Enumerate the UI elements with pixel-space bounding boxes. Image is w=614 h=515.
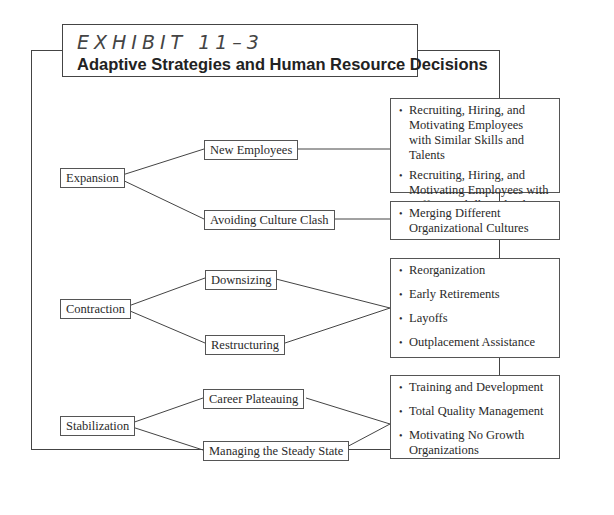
outcome-item: Total Quality Management <box>399 404 551 419</box>
node-stabilization: Stabilization <box>60 416 135 436</box>
outcome-contraction: Reorganization Early Retirements Layoffs… <box>390 258 560 358</box>
node-avoiding-culture-clash: Avoiding Culture Clash <box>204 210 335 230</box>
node-restructuring: Restructuring <box>205 335 285 355</box>
outcome-item: Recruiting, Hiring, and Motivating Emplo… <box>399 103 551 163</box>
outcome-item: Early Retirements <box>399 287 551 302</box>
node-downsizing: Downsizing <box>205 270 277 290</box>
outcome-item: Merging Different Organizational Culture… <box>399 206 551 236</box>
outcome-culture-clash: Merging Different Organizational Culture… <box>390 201 560 240</box>
node-managing-steady-state: Managing the Steady State <box>203 441 349 461</box>
outcome-stabilization: Training and Development Total Quality M… <box>390 375 560 459</box>
outcome-item: Layoffs <box>399 311 551 326</box>
node-expansion: Expansion <box>60 168 125 188</box>
outcome-item: Motivating No Growth Organizations <box>399 428 551 458</box>
node-contraction: Contraction <box>60 299 131 319</box>
exhibit-title: Adaptive Strategies and Human Resource D… <box>77 55 488 74</box>
exhibit-number: EXHIBIT 11–3 <box>77 31 264 53</box>
outcome-item: Outplacement Assistance <box>399 335 551 350</box>
node-new-employees: New Employees <box>204 140 298 160</box>
exhibit-header: EXHIBIT 11–3 Adaptive Strategies and Hum… <box>62 24 418 77</box>
node-career-plateauing: Career Plateauing <box>203 389 304 409</box>
outcome-item: Reorganization <box>399 263 551 278</box>
outcome-new-employees: Recruiting, Hiring, and Motivating Emplo… <box>390 98 560 193</box>
outcome-item: Training and Development <box>399 380 551 395</box>
